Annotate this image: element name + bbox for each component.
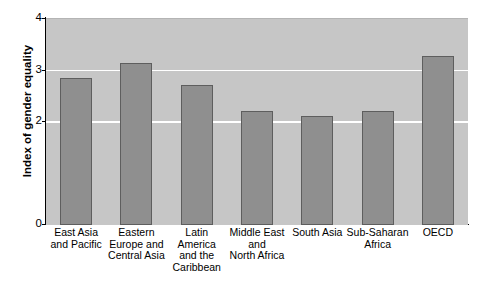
y-tick-mark <box>42 121 46 122</box>
bar <box>60 78 92 225</box>
x-label-line: North Africa <box>223 250 291 262</box>
x-axis-category-labels: East Asiaand PacificEasternEurope andCen… <box>46 227 468 289</box>
x-axis-label: EasternEurope andCentral Asia <box>102 227 170 262</box>
y-tick-label: 0 <box>28 218 42 230</box>
y-tick-label: 2 <box>28 115 42 127</box>
x-axis-label: Sub-SaharanAfrica <box>343 227 411 250</box>
x-label-line: Latin <box>163 227 231 239</box>
y-tick-label: 4 <box>28 12 42 24</box>
x-label-line: and the <box>163 250 231 262</box>
bar <box>120 63 152 225</box>
bar <box>181 85 213 225</box>
x-axis-label: East Asiaand Pacific <box>42 227 110 250</box>
y-tick-mark <box>42 70 46 71</box>
x-label-line: Africa <box>343 239 411 251</box>
x-label-line: East Asia <box>42 227 110 239</box>
x-label-line: South Asia <box>283 227 351 239</box>
x-label-line: Eastern <box>102 227 170 239</box>
x-label-line: OECD <box>404 227 472 239</box>
x-axis-label: LatinAmericaand theCaribbean <box>163 227 231 273</box>
plot-area <box>46 18 468 225</box>
y-tick-mark <box>42 224 46 225</box>
x-label-line: and Pacific <box>42 239 110 251</box>
x-axis-label: Middle EastandNorth Africa <box>223 227 291 262</box>
y-axis-tick-labels: 0234 <box>26 0 42 291</box>
gridline <box>46 70 468 72</box>
y-tick-mark <box>42 18 46 19</box>
x-axis-label: OECD <box>404 227 472 239</box>
x-axis-label: South Asia <box>283 227 351 239</box>
x-label-line: Caribbean <box>163 262 231 274</box>
bar <box>301 116 333 225</box>
y-tick-label: 3 <box>28 64 42 76</box>
bar <box>422 56 454 225</box>
x-label-line: Middle East <box>223 227 291 239</box>
bar <box>362 111 394 225</box>
gender-equality-bar-chart: Index of gender equality 0234 East Asiaa… <box>0 0 477 291</box>
x-label-line: Sub-Saharan <box>343 227 411 239</box>
x-label-line: Central Asia <box>102 250 170 262</box>
bar <box>241 111 273 225</box>
